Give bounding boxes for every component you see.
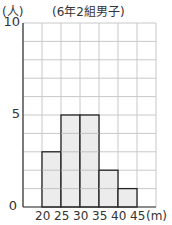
x-tick-20: 20 bbox=[35, 209, 50, 223]
x-tick-45: 45 bbox=[130, 209, 145, 223]
histogram-bar bbox=[61, 115, 80, 207]
x-axis-unit-label: (m) bbox=[146, 209, 167, 223]
x-tick-40: 40 bbox=[111, 209, 126, 223]
histogram-bar bbox=[80, 115, 99, 207]
histogram-bar bbox=[42, 152, 61, 207]
histogram-bar bbox=[118, 189, 137, 207]
histogram-plot bbox=[0, 0, 172, 225]
x-tick-30: 30 bbox=[73, 209, 88, 223]
x-tick-25: 25 bbox=[54, 209, 69, 223]
x-tick-35: 35 bbox=[92, 209, 107, 223]
